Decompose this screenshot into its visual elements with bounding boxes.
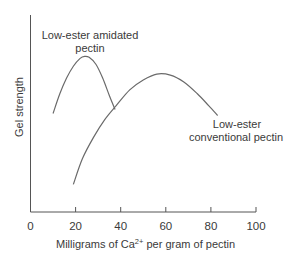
x-tick-label: 60 — [159, 220, 172, 232]
annotation-conventional-line2: conventional pectin — [189, 131, 283, 143]
x-tick-labels: 020406080100 — [27, 220, 265, 232]
y-axis-label: Gel strength — [13, 77, 25, 137]
curve-low-ester-conventional — [73, 74, 217, 185]
annotation-amidated-line2: pectin — [75, 42, 104, 54]
x-ticks — [31, 207, 257, 212]
x-tick-label: 80 — [205, 220, 218, 232]
x-tick-label: 0 — [27, 220, 33, 232]
curves — [53, 56, 218, 184]
x-tick-label: 20 — [69, 220, 82, 232]
annotation-conventional-line1: Low-ester — [213, 118, 262, 130]
x-axis-label: Milligrams of Ca2+ per gram of pectin — [56, 237, 235, 250]
curve-low-ester-amidated — [53, 56, 115, 113]
x-axis-label-suffix: per gram of pectin — [143, 238, 235, 250]
x-tick-label: 100 — [246, 220, 265, 232]
chart: 020406080100 Gel strength Milligrams of … — [0, 0, 290, 262]
x-axis-label-main: Milligrams of Ca — [56, 238, 136, 250]
annotation-amidated-line1: Low-ester amidated — [42, 29, 139, 41]
x-tick-label: 40 — [114, 220, 127, 232]
